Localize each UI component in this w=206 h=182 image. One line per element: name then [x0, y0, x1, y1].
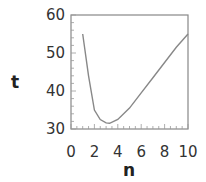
svg-text:6: 6 — [136, 143, 146, 161]
line-chart: 30405060 0246810 t n — [0, 0, 206, 182]
svg-text:0: 0 — [66, 143, 76, 161]
y-axis-label: t — [11, 72, 19, 92]
x-axis-ticks: 0246810 — [66, 143, 197, 161]
svg-text:8: 8 — [160, 143, 170, 161]
data-line — [83, 34, 188, 123]
svg-text:60: 60 — [46, 6, 65, 24]
svg-text:4: 4 — [113, 143, 123, 161]
svg-text:50: 50 — [46, 44, 65, 62]
y-axis-ticks: 30405060 — [46, 6, 65, 138]
svg-text:40: 40 — [46, 82, 65, 100]
svg-text:10: 10 — [178, 143, 197, 161]
svg-text:30: 30 — [46, 120, 65, 138]
x-axis-label: n — [123, 160, 135, 180]
svg-text:2: 2 — [90, 143, 100, 161]
